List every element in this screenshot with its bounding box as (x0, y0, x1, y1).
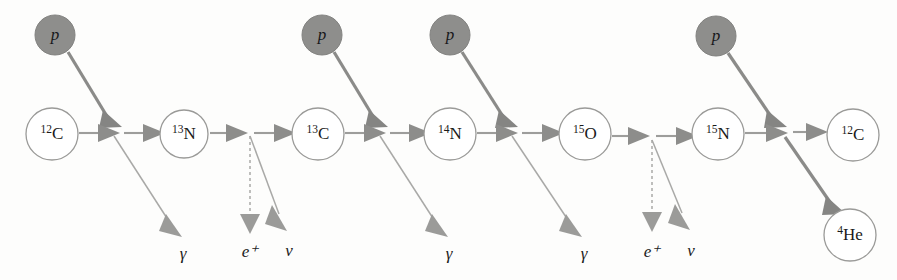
flow-arrowhead-o15-junction (628, 127, 650, 145)
positron-label-2: e⁺ (644, 242, 663, 261)
positron-arrowhead-2 (642, 212, 662, 232)
proton-label-4: p (711, 26, 721, 45)
proton-capture-line-2 (334, 52, 374, 118)
proton-label-1: p (50, 25, 60, 44)
emission-labels: γ e⁺ ν γ γ e⁺ ν (180, 241, 696, 263)
proton-nodes: p p p p (35, 15, 736, 56)
element-symbol-o15: O (585, 124, 597, 143)
mass-number-c12-start: 12 (41, 123, 53, 135)
gamma-arrowhead-3 (559, 214, 582, 237)
proton-node-2[interactable]: p (302, 15, 342, 55)
neutrino-label-1: ν (285, 241, 293, 260)
nuclide-node-c13[interactable]: 13C (292, 108, 344, 160)
nuclide-node-c12-start[interactable]: 12C (26, 108, 78, 160)
cno-cycle-canvas: p p p p 12C (0, 0, 897, 280)
element-symbol-n15: N (718, 124, 730, 143)
proton-capture-arrowhead-2 (365, 110, 388, 128)
nuclide-node-he4[interactable]: 4He (824, 209, 876, 261)
reaction-step-5 (612, 127, 698, 232)
mass-number-n14: 14 (438, 123, 450, 135)
helium-production-line (785, 137, 832, 205)
nuclide-node-n15[interactable]: 15N (692, 108, 744, 160)
gamma-arrowhead-2 (425, 214, 448, 237)
mass-number-o15: 15 (573, 123, 585, 135)
neutrino-arrowhead-1 (265, 205, 287, 231)
proton-capture-line-1 (68, 52, 108, 118)
nuclide-node-c12-end[interactable]: 12C (827, 109, 879, 161)
nuclide-node-o15[interactable]: 15O (559, 108, 611, 160)
mass-number-n15: 15 (706, 123, 718, 135)
proton-capture-line-3 (462, 52, 504, 118)
proton-label-3: p (445, 25, 455, 44)
positron-label-1: e⁺ (242, 242, 261, 261)
gamma-label-2: γ (446, 244, 454, 263)
flow-arrowhead-junction-c12end (806, 123, 828, 141)
proton-label-2: p (317, 25, 327, 44)
nuclide-node-n14[interactable]: 14N (424, 108, 476, 160)
element-symbol-c12-end: C (853, 125, 864, 144)
neutrino-emission-line-1 (250, 136, 279, 214)
element-symbol-n13: N (184, 124, 196, 143)
gamma-emission-line-3 (512, 136, 572, 226)
mass-number-c13: 13 (307, 123, 319, 135)
proton-capture-arrowhead-1 (99, 110, 122, 128)
gamma-label-1: γ (180, 244, 188, 263)
mass-number-n13: 13 (172, 123, 184, 135)
element-symbol-he4: He (843, 225, 863, 244)
neutrino-emission-line-2 (652, 140, 682, 213)
proton-node-1[interactable]: p (35, 15, 75, 55)
proton-node-3[interactable]: p (430, 15, 470, 55)
neutrino-label-2: ν (687, 241, 695, 260)
gamma-label-3: γ (581, 244, 589, 263)
reaction-step-2 (210, 124, 296, 234)
flow-arrowhead-n13-junction (226, 124, 248, 142)
nuclide-node-n13[interactable]: 13N (160, 110, 208, 158)
gamma-emission-line-1 (114, 136, 172, 226)
cno-cycle-diagram: p p p p 12C (0, 0, 897, 280)
gamma-arrowhead-1 (159, 214, 182, 237)
mass-number-c12-end: 12 (842, 124, 854, 136)
proton-capture-line-4 (728, 53, 772, 118)
element-symbol-n14: N (450, 124, 462, 143)
proton-node-4[interactable]: p (696, 16, 736, 56)
neutrino-arrowhead-2 (668, 204, 690, 230)
positron-arrowhead-1 (240, 214, 260, 234)
element-symbol-c13: C (318, 124, 329, 143)
element-symbol-c12-start: C (52, 124, 63, 143)
